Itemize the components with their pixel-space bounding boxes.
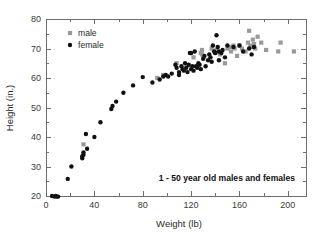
y-tick-label: 60	[31, 73, 41, 83]
data-point-female	[170, 71, 174, 75]
data-point-female	[131, 83, 135, 87]
data-point-female	[121, 91, 125, 95]
data-point-female	[231, 45, 235, 49]
x-tick-label: 200	[280, 200, 295, 210]
data-point-female	[193, 49, 197, 53]
data-point-male	[235, 54, 239, 58]
data-point-female	[191, 68, 195, 72]
data-point-female	[81, 150, 85, 154]
chart-canvas: 04080120160200 20304050607080 malefemale…	[0, 0, 323, 239]
data-point-female	[69, 164, 73, 168]
legend-label-male: male	[78, 28, 97, 38]
data-point-female	[197, 63, 201, 67]
y-tick-label: 20	[31, 191, 41, 201]
data-point-male	[256, 35, 260, 39]
data-point-female	[185, 70, 189, 74]
data-point-female	[98, 120, 102, 124]
data-point-female	[92, 135, 96, 139]
x-axis-tick-labels: 04080120160200	[43, 200, 295, 210]
data-point-female	[237, 43, 241, 47]
data-point-male	[191, 55, 195, 59]
data-point-female	[174, 65, 178, 69]
data-point-female	[85, 147, 89, 151]
data-point-male	[279, 41, 283, 45]
x-tick-label: 0	[43, 200, 48, 210]
data-point-female	[249, 52, 253, 56]
data-point-female	[141, 75, 145, 79]
x-axis-title: Weight (lb)	[156, 218, 202, 229]
data-point-female	[157, 77, 161, 81]
data-point-female	[56, 194, 60, 198]
data-point-male	[223, 61, 227, 65]
y-tick-label: 70	[31, 44, 41, 54]
data-point-male	[200, 48, 204, 52]
data-point-female	[223, 55, 227, 59]
data-point-male	[264, 48, 268, 52]
x-tick-label: 120	[184, 200, 199, 210]
data-point-female	[66, 177, 70, 181]
data-point-female	[166, 74, 170, 78]
data-point-female	[214, 33, 218, 37]
chart-annotation: 1 - 50 year old males and females	[159, 173, 295, 183]
data-point-male	[251, 38, 255, 42]
data-point-female	[208, 55, 212, 59]
data-point-female	[84, 132, 88, 136]
data-point-male	[259, 41, 263, 45]
data-series-male	[81, 29, 296, 147]
legend-marker-male	[68, 31, 72, 35]
y-tick-label: 40	[31, 132, 41, 142]
y-axis-title: Height (in.)	[4, 85, 15, 131]
scatter-chart-figure: 04080120160200 20304050607080 malefemale…	[0, 0, 323, 239]
data-point-female	[209, 60, 213, 64]
data-point-female	[247, 46, 251, 50]
data-point-male	[247, 29, 251, 33]
x-tick-label: 80	[138, 200, 148, 210]
data-point-female	[241, 49, 245, 53]
data-point-female	[114, 99, 118, 103]
data-point-female	[216, 45, 220, 49]
data-point-male	[276, 49, 280, 53]
data-point-male	[81, 142, 85, 146]
legend-marker-female	[68, 43, 72, 47]
data-point-female	[217, 58, 221, 62]
data-point-female	[150, 80, 154, 84]
y-tick-label: 80	[31, 14, 41, 24]
legend-label-female: female	[78, 40, 104, 50]
data-point-female	[220, 48, 224, 52]
y-tick-label: 30	[31, 162, 41, 172]
x-tick-label: 40	[89, 200, 99, 210]
data-point-female	[202, 54, 206, 58]
data-point-female	[203, 64, 207, 68]
data-point-female	[177, 73, 181, 77]
data-point-female	[199, 67, 203, 71]
x-tick-label: 160	[232, 200, 247, 210]
y-axis-tick-labels: 20304050607080	[31, 14, 41, 201]
data-point-female	[225, 43, 229, 47]
data-point-female	[211, 43, 215, 47]
chart-legend: malefemale	[68, 28, 104, 50]
data-point-male	[292, 49, 296, 53]
data-point-female	[252, 45, 256, 49]
data-point-female	[110, 104, 114, 108]
data-point-male	[229, 49, 233, 53]
y-tick-label: 50	[31, 103, 41, 113]
